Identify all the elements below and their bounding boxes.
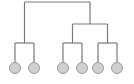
- leaf-node: [112, 63, 123, 74]
- leaf-node: [93, 63, 104, 74]
- leaf-node: [77, 63, 88, 74]
- tree-diagram: [0, 0, 134, 84]
- leaf-node: [29, 63, 40, 74]
- tree-leaves: [10, 63, 123, 74]
- leaf-node: [58, 63, 69, 74]
- tree-edges: [15, 2, 117, 63]
- leaf-node: [10, 63, 21, 74]
